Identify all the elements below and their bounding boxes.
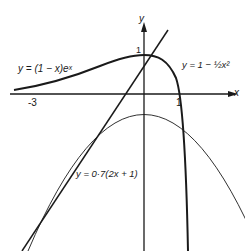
tick-y-1: 1 [136, 46, 141, 55]
tick-x-1: 1 [176, 98, 182, 108]
function-graph [0, 0, 245, 251]
x-axis-label: x [234, 88, 239, 98]
parabola-curve [28, 115, 245, 251]
parabola-label: y = 1 − ½x² [182, 60, 230, 70]
tick-x-neg3: -3 [28, 98, 37, 108]
line-label: y = 0·7(2x + 1) [76, 169, 138, 179]
y-axis-label: y [139, 14, 144, 24]
exp-curve-label: y = (1 − x)eˣ [18, 64, 72, 74]
exp-curve [14, 55, 188, 251]
